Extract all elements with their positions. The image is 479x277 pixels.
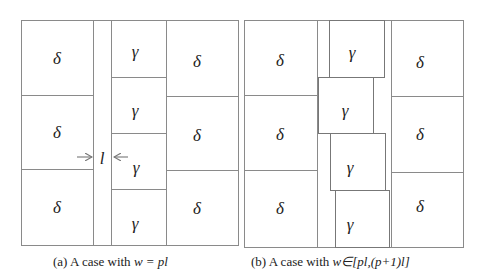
diagram-canvas: δδδγγγγδδδlδδδγγγγδδδ (0, 0, 479, 277)
delta-label: δ (276, 199, 285, 218)
delta-label: δ (53, 123, 62, 142)
width-label-l: l (100, 149, 105, 168)
delta-label: δ (416, 53, 425, 72)
caption-b-prefix: (b) A case with (251, 254, 333, 269)
gamma-box (336, 191, 390, 248)
caption-a-math: w = pl (134, 254, 168, 269)
gamma-label: γ (132, 42, 140, 61)
caption-panel-b: (b) A case with w∈[pl,(p+1)l] (251, 254, 410, 270)
caption-a-prefix: (a) A case with (53, 254, 134, 269)
delta-label: δ (193, 126, 202, 145)
gamma-box (330, 21, 385, 78)
gamma-box (331, 134, 386, 191)
caption-panel-a: (a) A case with w = pl (53, 254, 168, 270)
panel-a: δδδγγγγδδδl (22, 21, 239, 246)
gamma-label: γ (132, 101, 140, 120)
panel-b: δδδγγγγδδδ (245, 21, 464, 248)
delta-label: δ (276, 125, 285, 144)
delta-label: δ (193, 199, 202, 218)
gamma-label: γ (133, 158, 141, 177)
caption-b-math: w∈[pl,(p+1)l] (333, 254, 410, 269)
gamma-label: γ (132, 214, 140, 233)
delta-label: δ (276, 51, 285, 70)
delta-label: δ (416, 125, 425, 144)
delta-label: δ (416, 197, 425, 216)
delta-label: δ (53, 198, 62, 217)
delta-label: δ (193, 52, 202, 71)
delta-label: δ (53, 49, 62, 68)
